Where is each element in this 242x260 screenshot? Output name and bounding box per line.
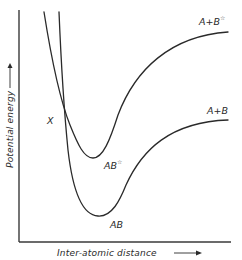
excited-asymptote-text: A+B bbox=[198, 16, 220, 27]
excited-asymptote-star-icon: ☆ bbox=[220, 14, 225, 21]
x-axis-arrowhead-icon bbox=[196, 251, 202, 256]
excited-star-icon: ☆ bbox=[117, 158, 122, 165]
excited-minimum-text: AB bbox=[103, 160, 117, 171]
potential-energy-diagram: X AB☆ AB A+B☆ A+B Potential energy Inter… bbox=[0, 0, 242, 260]
excited-state-curve bbox=[44, 12, 228, 158]
excited-asymptote-label: A+B☆ bbox=[198, 14, 225, 27]
crossing-point-label: X bbox=[46, 115, 54, 126]
y-axis-label: Potential energy bbox=[5, 90, 15, 168]
y-axis-arrowhead-icon bbox=[8, 63, 13, 68]
ground-state-curve bbox=[59, 12, 228, 216]
x-axis-label: Inter-atomic distance bbox=[57, 248, 157, 258]
ground-minimum-label: AB bbox=[109, 219, 123, 230]
excited-minimum-label: AB☆ bbox=[103, 158, 122, 171]
ground-asymptote-label: A+B bbox=[206, 105, 228, 116]
